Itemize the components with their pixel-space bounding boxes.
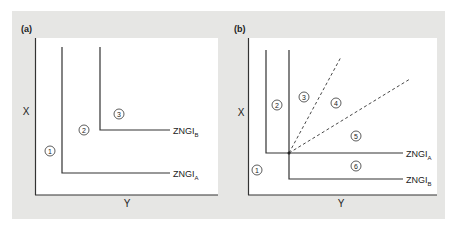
panel-b: (b) X Y ZNGIA ZNGIB 1 2 3 4 5 bbox=[234, 24, 437, 209]
svg-text:4: 4 bbox=[334, 100, 338, 107]
svg-text:3: 3 bbox=[302, 94, 306, 101]
panel-a: (a) X Y ZNGIA ZNGIB 1 2 3 bbox=[21, 24, 218, 209]
plot-area-b bbox=[248, 38, 437, 195]
svg-text:1: 1 bbox=[48, 148, 52, 155]
y-axis-label-a: X bbox=[23, 106, 30, 117]
svg-text:2: 2 bbox=[82, 127, 86, 134]
svg-text:3: 3 bbox=[117, 111, 121, 118]
figure-svg: (a) X Y ZNGIA ZNGIB 1 2 3 (b) X Y bbox=[0, 0, 457, 229]
svg-text:5: 5 bbox=[354, 133, 358, 140]
svg-text:6: 6 bbox=[354, 163, 358, 170]
panel-label-a: (a) bbox=[21, 24, 32, 34]
x-axis-label-a: Y bbox=[124, 198, 131, 209]
svg-text:2: 2 bbox=[275, 102, 279, 109]
equilibrium-point bbox=[288, 152, 291, 155]
y-axis-label-b: X bbox=[238, 107, 245, 118]
x-axis-label-b: Y bbox=[338, 198, 345, 209]
svg-text:1: 1 bbox=[255, 167, 259, 174]
panel-label-b: (b) bbox=[234, 24, 246, 34]
